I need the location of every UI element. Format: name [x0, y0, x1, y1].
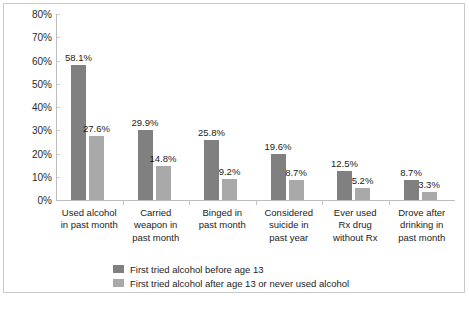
bar-value-label: 25.8% [198, 127, 225, 138]
bar[interactable] [138, 130, 153, 200]
category-separator [389, 200, 390, 205]
y-axis-tick-label: 0% [12, 195, 52, 206]
legend-label: First tried alcohol before age 13 [130, 264, 264, 275]
x-axis-category-label-line: Carried [123, 207, 190, 219]
bar-group: 29.9%14.8% [123, 14, 190, 200]
legend-item[interactable]: First tried alcohol before age 13 [113, 262, 349, 276]
x-axis-category-label: Drove afterdrinking inpast month [389, 207, 456, 244]
chart-figure: 80%70%60%50%40%30%20%10%0% 58.1%27.6%29.… [0, 0, 469, 314]
bar-value-label: 8.7% [285, 167, 307, 178]
bar[interactable] [156, 166, 171, 200]
y-axis-tick-label: 70% [12, 32, 52, 43]
x-axis-category-label-line: past month [123, 232, 190, 244]
bar[interactable] [222, 179, 237, 200]
x-axis-category-label-line: Ever used [322, 207, 389, 219]
x-axis-category-label: Carriedweapon inpast month [123, 207, 190, 244]
x-axis-category-label-line: past year [256, 232, 323, 244]
x-axis-category-label-line: Used alcohol [56, 207, 123, 219]
category-separator [189, 200, 190, 205]
x-axis-category-label: Binged inpast month [189, 207, 256, 232]
bar[interactable] [422, 192, 437, 200]
bar-value-label: 19.6% [265, 141, 292, 152]
legend-color-swatch [113, 279, 124, 287]
y-axis-tick-label: 50% [12, 78, 52, 89]
y-axis-tick-label: 40% [12, 102, 52, 113]
bar[interactable] [289, 180, 304, 200]
y-axis-tick-label: 30% [12, 125, 52, 136]
legend-item[interactable]: First tried alcohol after age 13 or neve… [113, 276, 349, 290]
bar-value-label: 12.5% [331, 158, 358, 169]
y-axis-tick-label: 10% [12, 171, 52, 182]
chart-legend: First tried alcohol before age 13First t… [113, 262, 349, 290]
x-axis-category-label-line: Binged in [189, 207, 256, 219]
x-axis-category-label-line: Considered [256, 207, 323, 219]
y-axis-tick-label: 80% [12, 9, 52, 20]
x-axis-category-label-line: past month [389, 232, 456, 244]
bar[interactable] [337, 171, 352, 200]
x-axis-category-label-line: drinking in [389, 219, 456, 231]
bar[interactable] [271, 154, 286, 200]
x-axis-category-label-line: weapon in [123, 219, 190, 231]
bar-value-label: 5.2% [352, 175, 374, 186]
plot-area: 58.1%27.6%29.9%14.8%25.8%9.2%19.6%8.7%12… [56, 14, 455, 200]
x-axis-category-label-line: in past month [56, 219, 123, 231]
category-separator [322, 200, 323, 205]
x-axis-category-label-line: without Rx [322, 232, 389, 244]
bar-value-label: 9.2% [219, 166, 241, 177]
x-axis-category-label-line: Drove after [389, 207, 456, 219]
bar-group: 12.5%5.2% [322, 14, 389, 200]
bar-value-label: 27.6% [83, 123, 110, 134]
bar[interactable] [204, 140, 219, 200]
bar-value-label: 3.3% [418, 179, 440, 190]
bar[interactable] [89, 136, 104, 200]
bar[interactable] [355, 188, 370, 200]
bar-value-label: 14.8% [150, 153, 177, 164]
y-axis-tick-label: 20% [12, 148, 52, 159]
bar-group: 19.6%8.7% [256, 14, 323, 200]
x-axis-category-label-line: past month [189, 219, 256, 231]
x-axis-category-label-line: suicide in [256, 219, 323, 231]
bar-value-label: 29.9% [132, 117, 159, 128]
bar-group: 25.8%9.2% [189, 14, 256, 200]
bar-group: 8.7%3.3% [389, 14, 456, 200]
bar-group: 58.1%27.6% [56, 14, 123, 200]
x-axis-category-label: Used alcoholin past month [56, 207, 123, 232]
category-separator [123, 200, 124, 205]
y-axis-tick-label: 60% [12, 55, 52, 66]
legend-color-swatch [113, 265, 124, 273]
x-axis-category-label-line: Rx drug [322, 219, 389, 231]
y-axis-tick-labels: 80%70%60%50%40%30%20%10%0% [8, 14, 52, 200]
category-separator [256, 200, 257, 205]
x-axis-category-label: Ever usedRx drugwithout Rx [322, 207, 389, 244]
bar-value-label: 58.1% [65, 52, 92, 63]
bar-value-label: 8.7% [400, 167, 422, 178]
bar[interactable] [404, 180, 419, 200]
x-axis-category-label: Consideredsuicide inpast year [256, 207, 323, 244]
legend-label: First tried alcohol after age 13 or neve… [130, 278, 349, 289]
